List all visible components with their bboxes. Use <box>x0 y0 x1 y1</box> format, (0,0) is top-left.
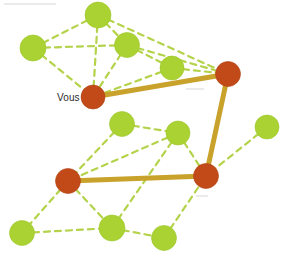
graph-node-red-r1[interactable] <box>81 85 105 109</box>
graph-node-green-g10[interactable] <box>152 226 177 251</box>
graph-node-green-g2[interactable] <box>20 35 46 61</box>
graph-edge-solid-r1-r2 <box>93 74 228 97</box>
graph-node-label-r1: Vous <box>57 92 80 103</box>
graph-edge-dashed-g8-g9 <box>22 228 112 233</box>
graph-node-green-g4[interactable] <box>160 56 184 80</box>
graph-node-green-g1[interactable] <box>85 2 111 28</box>
graph-node-green-g3[interactable] <box>115 33 140 58</box>
graph-node-red-r3[interactable] <box>56 169 81 194</box>
graph-node-green-g8[interactable] <box>10 221 35 246</box>
graph-edge-solid-r4-r3 <box>68 176 206 181</box>
graph-edge-dashed-g2-g3 <box>33 45 127 48</box>
network-graph-canvas: Vous <box>0 0 295 259</box>
node-layer[interactable] <box>10 2 280 251</box>
dashed-edge-layer <box>22 15 267 238</box>
graph-node-red-r4[interactable] <box>194 164 219 189</box>
graph-edge-dashed-g6-r3 <box>68 133 178 181</box>
graph-node-green-g5[interactable] <box>110 112 135 137</box>
graph-node-green-g6[interactable] <box>166 121 190 145</box>
graph-node-red-r2[interactable] <box>216 62 241 87</box>
graph-node-green-g7[interactable] <box>255 115 279 139</box>
network-graph-svg[interactable] <box>0 0 295 259</box>
graph-node-green-g9[interactable] <box>99 215 125 241</box>
